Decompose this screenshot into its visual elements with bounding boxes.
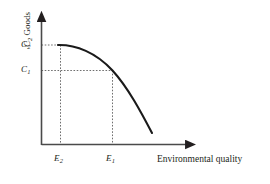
tradeoff-curve-figure: C2 Goods C2 C1 E2 E1 Environmental quali… [0, 0, 270, 184]
y-tick-label-c1: C1 [21, 65, 30, 74]
y-axis-title-word: Goods [22, 12, 32, 36]
ppf-curve [58, 45, 152, 133]
x-tick-e1-subscript: 1 [112, 157, 115, 164]
y-tick-c1-subscript: 1 [27, 68, 30, 75]
y-tick-c2-subscript: 2 [27, 43, 30, 50]
x-axis-title: Environmental quality [157, 155, 242, 165]
x-tick-label-e1: E1 [106, 154, 115, 163]
y-axis-title: C2 Goods [23, 0, 32, 65]
x-tick-e2-subscript: 2 [60, 157, 63, 164]
x-tick-label-e2: E2 [54, 154, 63, 163]
x-tick-e2-symbol: E [54, 153, 60, 163]
x-tick-e1-symbol: E [106, 153, 112, 163]
y-tick-label-c2: C2 [21, 40, 30, 49]
